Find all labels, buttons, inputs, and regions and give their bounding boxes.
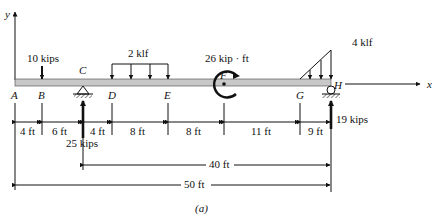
svg-text:2 klf: 2 klf: [128, 47, 149, 59]
beam: [15, 79, 331, 86]
reaction-H: 19 kips: [331, 101, 368, 129]
svg-text:4 ft: 4 ft: [90, 125, 105, 137]
svg-text:6 ft: 6 ft: [52, 125, 67, 137]
svg-text:50 ft: 50 ft: [184, 178, 204, 190]
point-G: G: [296, 89, 304, 101]
x-axis: x: [345, 78, 432, 90]
svg-text:40 ft: 40 ft: [209, 158, 229, 170]
figure-caption: (a): [195, 202, 208, 215]
svg-text:9 ft: 9 ft: [308, 125, 323, 137]
pin-support-C: [73, 86, 93, 98]
point-C: C: [79, 64, 87, 76]
point-D: D: [107, 89, 116, 101]
svg-text:4 klf: 4 klf: [352, 36, 373, 48]
svg-text:25 kips: 25 kips: [66, 137, 98, 149]
dimension-40ft: 40 ft: [84, 158, 330, 170]
segment-dimensions: 4 ft 6 ft 4 ft 8 ft 8 ft 11 ft 9 ft: [16, 122, 330, 137]
beam-diagram: y x A B C D E F G H 10 kips 2 klf 26 kip…: [0, 0, 437, 220]
point-E: E: [163, 89, 171, 101]
uniform-load-DE: 2 klf: [112, 47, 168, 79]
svg-text:y: y: [4, 8, 10, 20]
svg-text:10 kips: 10 kips: [27, 52, 59, 64]
triangular-load-GH: 4 klf: [300, 36, 373, 79]
extension-lines: [15, 103, 331, 192]
svg-text:4 ft: 4 ft: [20, 125, 35, 137]
svg-text:11 ft: 11 ft: [251, 125, 271, 137]
svg-text:19 kips: 19 kips: [336, 113, 368, 125]
point-A: A: [10, 89, 18, 101]
dimension-50ft: 50 ft: [16, 178, 330, 190]
svg-text:x: x: [426, 78, 432, 90]
point-load-B: 10 kips: [27, 52, 59, 79]
svg-text:8 ft: 8 ft: [186, 125, 201, 137]
svg-text:8 ft: 8 ft: [130, 125, 145, 137]
point-B: B: [38, 89, 45, 101]
moment-F: 26 kip · ft: [205, 52, 249, 97]
svg-text:26 kip · ft: 26 kip · ft: [205, 52, 249, 64]
y-axis: y: [4, 8, 15, 80]
